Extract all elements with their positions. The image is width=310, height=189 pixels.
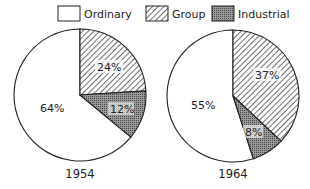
legend-swatch-ordinary xyxy=(58,6,80,21)
legend-label-industrial: Industrial xyxy=(238,8,290,21)
label-industrial-1954: 12% xyxy=(110,103,134,116)
pie-chart-figure: Ordinary Group Industrial 64% 24% 12% 19… xyxy=(0,0,310,189)
pie-1954: 64% 24% 12% 1954 xyxy=(14,29,146,181)
year-label-1954: 1954 xyxy=(65,167,94,181)
legend: Ordinary Group Industrial xyxy=(58,6,290,21)
legend-item-ordinary: Ordinary xyxy=(58,6,132,21)
label-group-1964: 37% xyxy=(255,69,279,82)
pie-1964: 55% 37% 8% 1964 xyxy=(167,30,299,181)
legend-item-industrial: Industrial xyxy=(212,6,290,21)
legend-swatch-industrial xyxy=(212,6,234,21)
year-label-1964: 1964 xyxy=(218,167,247,181)
label-ordinary-1954: 64% xyxy=(40,102,64,115)
label-ordinary-1964: 55% xyxy=(191,99,215,112)
legend-swatch-group xyxy=(146,6,168,21)
label-group-1954: 24% xyxy=(97,61,121,74)
legend-item-group: Group xyxy=(146,6,206,21)
label-industrial-1964: 8% xyxy=(245,126,262,139)
legend-label-ordinary: Ordinary xyxy=(84,8,132,21)
legend-label-group: Group xyxy=(172,8,206,21)
